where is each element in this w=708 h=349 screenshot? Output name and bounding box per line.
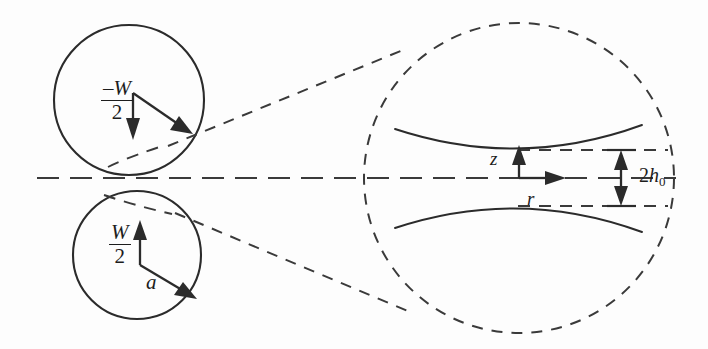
sphere-radius-label: a bbox=[146, 270, 157, 295]
force-arrow-up-head bbox=[133, 220, 147, 240]
upper-sphere-surface-curve bbox=[395, 125, 642, 149]
magnifier-connector-lower bbox=[175, 213, 410, 312]
gap-marker-lower bbox=[104, 195, 172, 214]
squeeze-film-diagram bbox=[0, 0, 708, 349]
gap-height-label: 2h0 bbox=[639, 164, 666, 187]
gap-dimension-head-down bbox=[614, 186, 628, 206]
force-label-negative-half-w: –W 2 bbox=[101, 78, 133, 124]
gap-prefix: 2 bbox=[639, 164, 649, 186]
axial-coordinate-label: z bbox=[490, 148, 497, 170]
force-label-pos-numerator: W bbox=[109, 222, 131, 243]
lower-sphere-surface-curve bbox=[395, 208, 642, 232]
force-label-positive-half-w: W 2 bbox=[109, 222, 131, 268]
figure-container: –W 2 W 2 a z r 2h0 bbox=[0, 0, 708, 349]
lower-sphere-outline bbox=[73, 191, 201, 319]
r-axis-arrow-head bbox=[545, 171, 566, 185]
force-label-neg-numerator: –W bbox=[101, 78, 133, 99]
gap-dimension-head-up bbox=[614, 150, 628, 170]
force-label-pos-denominator: 2 bbox=[109, 245, 131, 267]
upper-radius-arrow-head bbox=[170, 116, 193, 134]
force-label-neg-denominator: 2 bbox=[101, 101, 133, 123]
gap-marker-upper bbox=[108, 145, 166, 167]
upper-radius-arrow-shaft bbox=[133, 93, 178, 124]
radial-coordinate-label: r bbox=[527, 188, 534, 210]
gap-subscript: 0 bbox=[659, 174, 666, 189]
gap-symbol: h bbox=[649, 164, 659, 186]
